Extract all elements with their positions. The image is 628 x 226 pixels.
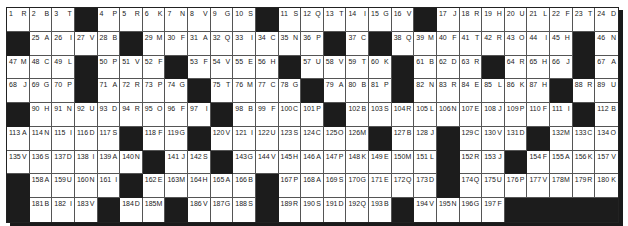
- puzzle-cell[interactable]: 142S: [188, 151, 211, 175]
- puzzle-cell[interactable]: 169S: [324, 174, 347, 198]
- puzzle-cell[interactable]: 117S: [98, 127, 121, 151]
- puzzle-cell[interactable]: 180K: [595, 174, 618, 198]
- puzzle-cell[interactable]: 29M: [143, 32, 166, 56]
- puzzle-cell[interactable]: 115I: [52, 127, 75, 151]
- puzzle-cell[interactable]: 25A: [30, 32, 53, 56]
- puzzle-cell[interactable]: 101P: [301, 103, 324, 127]
- puzzle-cell[interactable]: 157V: [595, 151, 618, 175]
- puzzle-cell[interactable]: 194V: [414, 198, 437, 222]
- puzzle-cell[interactable]: 133C: [573, 127, 596, 151]
- puzzle-cell[interactable]: 82N: [414, 79, 437, 103]
- puzzle-cell[interactable]: 168A: [301, 174, 324, 198]
- puzzle-cell[interactable]: 57U: [301, 56, 324, 80]
- puzzle-cell[interactable]: 136S: [30, 151, 53, 175]
- puzzle-cell[interactable]: 192Q: [346, 198, 369, 222]
- puzzle-cell[interactable]: 120V: [211, 127, 234, 151]
- puzzle-cell[interactable]: 78G: [279, 79, 302, 103]
- puzzle-cell[interactable]: 189R: [279, 198, 302, 222]
- puzzle-cell[interactable]: 105L: [414, 103, 437, 127]
- puzzle-cell[interactable]: 52F: [143, 56, 166, 80]
- puzzle-cell[interactable]: 46N: [595, 32, 618, 56]
- puzzle-cell[interactable]: 146A: [301, 151, 324, 175]
- puzzle-cell[interactable]: 68J: [7, 79, 30, 103]
- puzzle-cell[interactable]: 37C: [346, 32, 369, 56]
- puzzle-cell[interactable]: 170G: [346, 174, 369, 198]
- puzzle-cell[interactable]: 128J: [414, 127, 437, 151]
- puzzle-cell[interactable]: 32Q: [211, 32, 234, 56]
- puzzle-cell[interactable]: 8V: [188, 8, 211, 32]
- puzzle-cell[interactable]: 160N: [75, 174, 98, 198]
- puzzle-cell[interactable]: 109P: [505, 103, 528, 127]
- puzzle-cell[interactable]: 54V: [211, 56, 234, 80]
- puzzle-cell[interactable]: 21L: [527, 8, 550, 32]
- puzzle-cell[interactable]: 40F: [437, 32, 460, 56]
- puzzle-cell[interactable]: 191D: [324, 198, 347, 222]
- puzzle-cell[interactable]: 121I: [233, 127, 256, 151]
- puzzle-cell[interactable]: 66J: [550, 56, 573, 80]
- puzzle-cell[interactable]: 187G: [211, 198, 234, 222]
- puzzle-cell[interactable]: 4P: [98, 8, 121, 32]
- puzzle-cell[interactable]: 70P: [52, 79, 75, 103]
- puzzle-cell[interactable]: 147P: [324, 151, 347, 175]
- puzzle-cell[interactable]: 61B: [414, 56, 437, 80]
- puzzle-cell[interactable]: 13T: [324, 8, 347, 32]
- puzzle-cell[interactable]: 12Q: [301, 8, 324, 32]
- puzzle-cell[interactable]: 193B: [369, 198, 392, 222]
- puzzle-cell[interactable]: 132M: [550, 127, 573, 151]
- puzzle-cell[interactable]: 118F: [143, 127, 166, 151]
- puzzle-cell[interactable]: 23T: [573, 8, 596, 32]
- puzzle-cell[interactable]: 58V: [324, 56, 347, 80]
- puzzle-cell[interactable]: 44I: [527, 32, 550, 56]
- puzzle-cell[interactable]: 177V: [527, 174, 550, 198]
- puzzle-cell[interactable]: 184D: [120, 198, 143, 222]
- puzzle-cell[interactable]: 161I: [98, 174, 121, 198]
- puzzle-cell[interactable]: 107E: [460, 103, 483, 127]
- puzzle-cell[interactable]: 131D: [505, 127, 528, 151]
- puzzle-cell[interactable]: 64R: [505, 56, 528, 80]
- puzzle-cell[interactable]: 174Q: [460, 174, 483, 198]
- puzzle-cell[interactable]: 185M: [143, 198, 166, 222]
- puzzle-cell[interactable]: 176P: [505, 174, 528, 198]
- puzzle-cell[interactable]: 16V: [392, 8, 415, 32]
- puzzle-cell[interactable]: 85L: [482, 79, 505, 103]
- puzzle-cell[interactable]: 18R: [460, 8, 483, 32]
- puzzle-cell[interactable]: 53F: [188, 56, 211, 80]
- puzzle-cell[interactable]: 98B: [233, 103, 256, 127]
- puzzle-cell[interactable]: 81P: [369, 79, 392, 103]
- puzzle-cell[interactable]: 14I: [346, 8, 369, 32]
- puzzle-cell[interactable]: 140N: [120, 151, 143, 175]
- puzzle-cell[interactable]: 99F: [256, 103, 279, 127]
- puzzle-cell[interactable]: 76M: [233, 79, 256, 103]
- puzzle-cell[interactable]: 42R: [482, 32, 505, 56]
- puzzle-cell[interactable]: 166B: [233, 174, 256, 198]
- puzzle-cell[interactable]: 49L: [52, 56, 75, 80]
- puzzle-cell[interactable]: 114N: [30, 127, 53, 151]
- puzzle-cell[interactable]: 178M: [550, 174, 573, 198]
- puzzle-cell[interactable]: 47M: [7, 56, 30, 80]
- puzzle-cell[interactable]: 51V: [120, 56, 143, 80]
- puzzle-cell[interactable]: 24D: [595, 8, 618, 32]
- puzzle-cell[interactable]: 124C: [301, 127, 324, 151]
- puzzle-cell[interactable]: 65H: [527, 56, 550, 80]
- puzzle-cell[interactable]: 86K: [505, 79, 528, 103]
- puzzle-cell[interactable]: 150M: [392, 151, 415, 175]
- puzzle-cell[interactable]: 9G: [211, 8, 234, 32]
- puzzle-cell[interactable]: 154F: [527, 151, 550, 175]
- puzzle-cell[interactable]: 149E: [369, 151, 392, 175]
- puzzle-cell[interactable]: 112B: [595, 103, 618, 127]
- puzzle-cell[interactable]: 127B: [392, 127, 415, 151]
- puzzle-cell[interactable]: 27V: [75, 32, 98, 56]
- puzzle-cell[interactable]: 55E: [233, 56, 256, 80]
- puzzle-cell[interactable]: 164H: [188, 174, 211, 198]
- puzzle-cell[interactable]: 145H: [279, 151, 302, 175]
- puzzle-cell[interactable]: 141J: [165, 151, 188, 175]
- puzzle-cell[interactable]: 56H: [256, 56, 279, 80]
- puzzle-cell[interactable]: 38Q: [392, 32, 415, 56]
- puzzle-cell[interactable]: 17J: [437, 8, 460, 32]
- puzzle-cell[interactable]: 116D: [75, 127, 98, 151]
- puzzle-cell[interactable]: 34C: [256, 32, 279, 56]
- puzzle-cell[interactable]: 156K: [573, 151, 596, 175]
- puzzle-cell[interactable]: 59T: [346, 56, 369, 80]
- puzzle-cell[interactable]: 33I: [233, 32, 256, 56]
- puzzle-cell[interactable]: 103S: [369, 103, 392, 127]
